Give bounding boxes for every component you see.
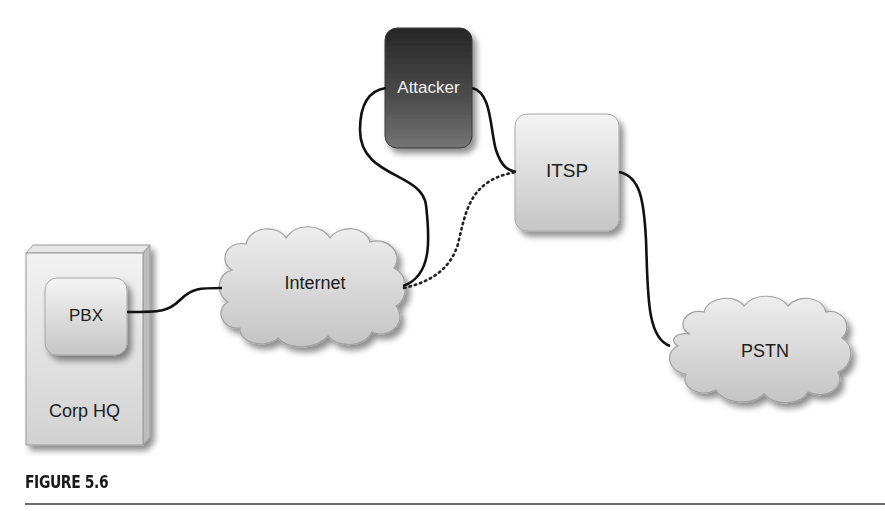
figure-caption: FIGURE 5.6 [25,472,108,492]
corp-hq-label: Corp HQ [26,401,143,422]
pstn-label: PSTN [690,341,840,362]
caption-rule [25,503,885,505]
itsp-label: ITSP [515,160,619,182]
edge-attacker-itsp [472,88,516,172]
attacker-label: Attacker [385,78,472,98]
pbx-label: PBX [45,306,127,326]
internet-label: Internet [240,273,390,294]
diagram-canvas [0,0,885,511]
network-diagram: PBX Corp HQ Internet Attacker ITSP PSTN … [0,0,885,511]
edge-itsp-pstn [619,172,670,346]
